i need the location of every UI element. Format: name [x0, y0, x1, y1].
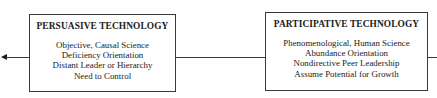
attribute-line: Need to Control	[30, 71, 175, 81]
box-attributes: Objective, Causal Science Deficiency Ori…	[30, 40, 175, 81]
attribute-line: Abundance Orientation	[266, 48, 427, 58]
attribute-line: Distant Leader or Hierarchy	[30, 60, 175, 70]
attribute-line: Assume Potential for Growth	[266, 69, 427, 79]
box-title: PERSUASIVE TECHNOLOGY	[30, 21, 175, 32]
connector-left-arrow-line	[6, 57, 29, 58]
attribute-line: Phenomenological, Human Science	[266, 38, 427, 48]
box-attributes: Phenomenological, Human Science Abundanc…	[266, 38, 427, 79]
attribute-line: Objective, Causal Science	[30, 40, 175, 50]
box-title: PARTICIPATIVE TECHNOLOGY	[266, 19, 427, 30]
connector-right-line	[428, 57, 437, 58]
attribute-line: Nondirective Peer Leadership	[266, 58, 427, 68]
attribute-line: Deficiency Orientation	[30, 50, 175, 60]
persuasive-technology-box: PERSUASIVE TECHNOLOGY Objective, Causal …	[29, 14, 176, 92]
connector-middle-line	[176, 57, 265, 58]
participative-technology-box: PARTICIPATIVE TECHNOLOGY Phenomenologica…	[265, 12, 428, 91]
